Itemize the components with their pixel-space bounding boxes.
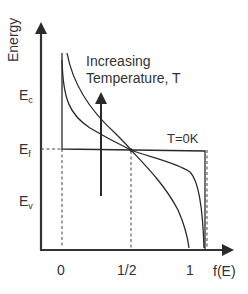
y-axis-arrowhead bbox=[35, 22, 47, 34]
x-tick-0: 0 bbox=[57, 262, 65, 278]
x-axis-arrowhead bbox=[222, 244, 234, 256]
ev-label: Ev bbox=[19, 193, 33, 211]
zero-k-label: T=0K bbox=[167, 131, 199, 146]
fermi-dirac-diagram: Energy Ec Ef Ev Increasing T bbox=[0, 0, 248, 294]
x-axis-label: f(E) bbox=[213, 263, 236, 279]
annotation-line-1: Increasing bbox=[86, 53, 151, 69]
increasing-temperature-arrow bbox=[95, 92, 107, 196]
arrow-up-icon bbox=[95, 92, 107, 104]
dashed-guides bbox=[41, 149, 207, 248]
annotation-line-2: Temperature, T bbox=[86, 70, 181, 86]
ef-label: Ef bbox=[19, 141, 31, 159]
y-axis-label: Energy bbox=[5, 18, 21, 62]
fermi-crossing-point bbox=[129, 148, 133, 152]
x-tick-1: 1 bbox=[186, 262, 194, 278]
ec-label: Ec bbox=[19, 87, 33, 105]
x-tick-half: 1/2 bbox=[117, 262, 137, 278]
curve-low-t bbox=[62, 60, 204, 248]
